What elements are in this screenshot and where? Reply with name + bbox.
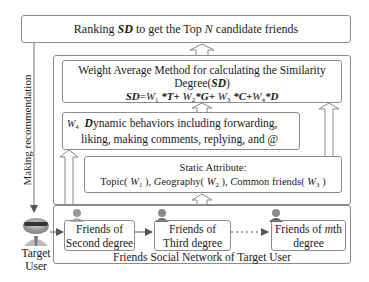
node-second-line1: Friends of	[65, 223, 134, 236]
ranking-box: Ranking SD to get the Top N candidate fr…	[21, 15, 351, 43]
f-w1: W	[146, 90, 155, 102]
ranking-text: Ranking SD to get the Top N candidate fr…	[22, 23, 350, 36]
dyn-d: D	[85, 117, 93, 129]
dyn-w4-sub: 4	[75, 123, 79, 131]
node-mth-line1: Friends of mth	[272, 223, 345, 236]
static-title: Static Attribute:	[85, 162, 341, 174]
target-user-line2: User	[14, 260, 58, 273]
target-user-icon	[23, 218, 49, 246]
target-user-line1: Target	[14, 247, 58, 260]
ranking-sd: SD	[118, 22, 133, 36]
ranking-middle: to get the Top	[133, 22, 205, 36]
ranking-suffix: candidate friends	[213, 22, 298, 36]
dynamic-line2: liking, making comments, replying, and @	[81, 133, 278, 146]
s-w1: W	[130, 176, 139, 187]
dynamic-line1: W4 Dynamic behaviors including forwardin…	[67, 117, 278, 132]
node-mth-degree: Friends of mth degree	[271, 220, 346, 251]
weight-line2: Degree(SD)	[63, 77, 341, 90]
formula-text: SD=W1 *T+ W2*G+ W3 *C+W4*D	[63, 90, 341, 105]
f-c: *C+	[230, 90, 252, 102]
target-user-label: Target User	[14, 247, 58, 272]
f-w3: W	[218, 90, 227, 102]
network-label: Friends Social Network of Target User	[54, 251, 350, 264]
s-w3: W	[307, 176, 316, 187]
static-box: Static Attribute: Topic( W1 ), Geography…	[84, 156, 342, 193]
degree-suffix: )	[226, 77, 230, 89]
s-sep2: ),	[219, 176, 230, 187]
s-end: )	[320, 176, 326, 187]
f-w2: W	[183, 90, 192, 102]
f-d: *D	[265, 90, 278, 102]
making-recommendation-label: Making recommendation	[21, 65, 33, 195]
degree-prefix: Degree(	[174, 77, 211, 89]
s-common: ommon friends(	[237, 176, 307, 187]
node-third-degree: Friends of Third degree	[154, 220, 231, 251]
ranking-prefix: Ranking	[74, 22, 118, 36]
node-mth-line2: degree	[272, 237, 345, 250]
node-third-line2: Third degree	[155, 237, 230, 250]
node-third-line1: Friends of	[155, 223, 230, 236]
s-sep1: ),	[142, 176, 153, 187]
s-topic: Topic(	[100, 176, 130, 187]
f-sd: SD	[126, 90, 140, 102]
dynamic-box: W4 Dynamic behaviors including forwardin…	[62, 112, 300, 150]
mth-suffix: th	[333, 223, 342, 235]
hollow-arrow-up-top	[190, 44, 214, 55]
dyn-rest: ynamic behaviors including forwarding,	[93, 117, 278, 129]
node-second-degree: Friends of Second degree	[64, 220, 135, 251]
weight-line1: Weight Average Method for calculating th…	[63, 64, 341, 77]
s-geo: eography(	[161, 176, 206, 187]
f-t: *T+	[159, 90, 183, 102]
formula-box: Weight Average Method for calculating th…	[62, 60, 342, 103]
f-g: *G+	[195, 90, 217, 102]
mth-m: m	[325, 223, 333, 235]
mth-prefix: Friends of	[275, 223, 325, 235]
ranking-n: N	[205, 22, 213, 36]
degree-sd: SD	[211, 77, 226, 89]
node-second-line2: Second degree	[65, 237, 134, 250]
static-attributes: Topic( W1 ), Geography( W2 ), Common fri…	[85, 176, 341, 190]
